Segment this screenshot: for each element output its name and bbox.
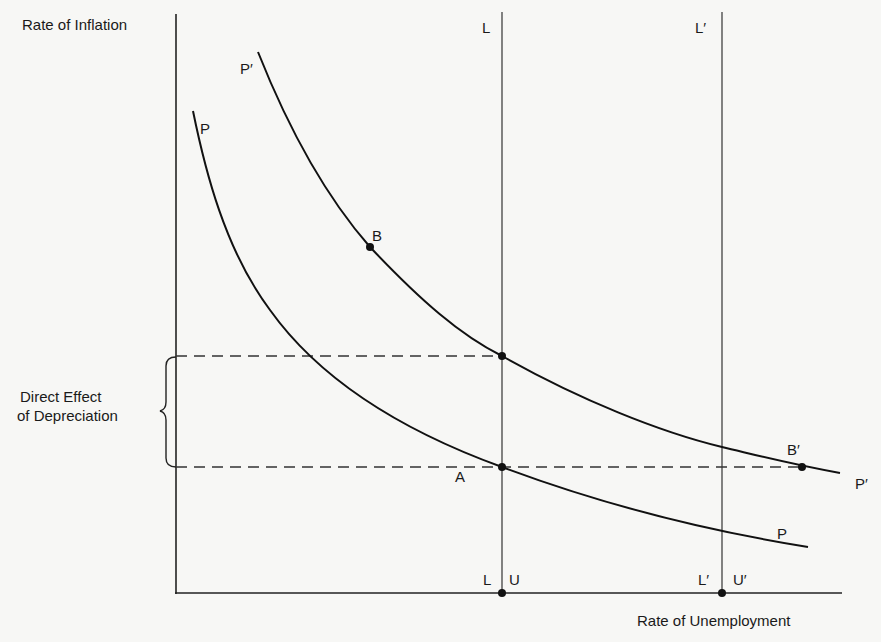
point-P-L-intersection xyxy=(498,463,506,471)
label-L-prime-top: L′ xyxy=(695,19,706,36)
label-U-bottom: U xyxy=(509,571,520,588)
curve-P-prime xyxy=(258,52,840,473)
label-A: A xyxy=(455,468,465,485)
label-B: B xyxy=(372,227,382,244)
bracket-label-line1: Direct Effect xyxy=(20,388,102,405)
label-B-prime: B′ xyxy=(787,441,800,458)
y-axis-title: Rate of Inflation xyxy=(22,16,127,33)
label-L-bottom: L xyxy=(483,571,491,588)
label-P-prime-end: P′ xyxy=(855,475,868,492)
bracket-label-line2: of Depreciation xyxy=(17,407,118,424)
point-U xyxy=(498,589,506,597)
label-P-top: P xyxy=(200,120,210,137)
label-L-top: L xyxy=(482,19,490,36)
label-L-prime-bottom: L′ xyxy=(698,571,709,588)
curve-P xyxy=(193,111,808,547)
point-P-prime-L-intersection xyxy=(498,352,506,360)
label-P-end: P xyxy=(777,525,787,542)
x-axis-title: Rate of Unemployment xyxy=(637,612,791,629)
label-U-prime-bottom: U′ xyxy=(733,571,747,588)
point-U-prime xyxy=(718,589,726,597)
bracket-brace xyxy=(160,357,176,467)
label-P-prime-top: P′ xyxy=(240,60,253,77)
point-B-prime xyxy=(798,463,806,471)
phillips-curve-diagram: Rate of Inflation Rate of Unemployment L… xyxy=(0,0,881,642)
point-B xyxy=(366,243,374,251)
